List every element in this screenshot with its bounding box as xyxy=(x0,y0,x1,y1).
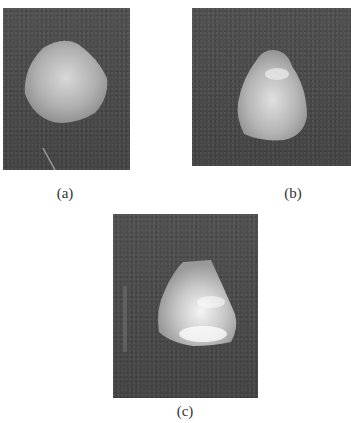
panel-label-b: (b) xyxy=(273,185,313,202)
stone-image-b xyxy=(192,8,351,166)
figure-panel-a xyxy=(3,8,130,170)
stone-image-c xyxy=(113,214,258,398)
panel-label-a: (a) xyxy=(45,185,85,202)
figure-panel-c xyxy=(113,214,258,398)
figure-panel-b xyxy=(192,8,351,166)
stone-image-a xyxy=(3,8,130,170)
panel-label-c: (c) xyxy=(165,403,205,420)
